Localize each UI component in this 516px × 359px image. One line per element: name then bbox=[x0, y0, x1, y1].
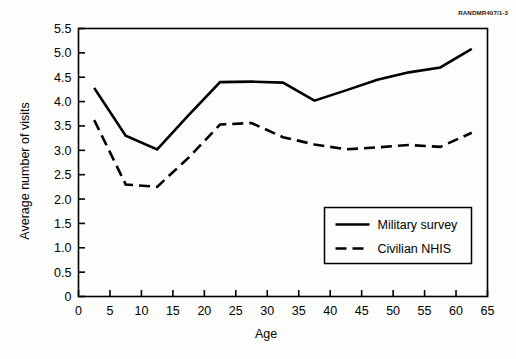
x-axis-tick-label: 5 bbox=[106, 304, 113, 318]
x-axis-tick-label: 10 bbox=[134, 304, 148, 318]
y-axis-tick-label: 1.5 bbox=[54, 217, 71, 231]
x-axis-tick-label: 45 bbox=[355, 304, 369, 318]
figure-chart: RANDMR407/1-3 Average number of visits A… bbox=[0, 0, 516, 359]
y-axis-tick-label: 5.5 bbox=[54, 22, 71, 36]
y-axis-tick-label: 1.0 bbox=[54, 241, 71, 255]
axis-tick-labels-group: 00.51.01.52.02.53.03.54.04.55.05.5051015… bbox=[54, 22, 494, 318]
x-axis-tick-label: 65 bbox=[481, 304, 495, 318]
x-axis-tick-label: 60 bbox=[449, 304, 463, 318]
y-axis-tick-label: 0.5 bbox=[54, 266, 71, 280]
x-axis-tick-label: 50 bbox=[386, 304, 400, 318]
x-axis-tick-label: 0 bbox=[75, 304, 82, 318]
data-series-group bbox=[94, 49, 472, 187]
legend-label: Civilian NHIS bbox=[378, 242, 452, 256]
y-axis-tick-label: 4.5 bbox=[54, 71, 71, 85]
series-line-civilian-nhis bbox=[94, 120, 472, 187]
y-axis-tick-label: 4.0 bbox=[54, 95, 71, 109]
chart-legend: Military surveyCivilian NHIS bbox=[325, 208, 472, 264]
x-axis-tick-label: 40 bbox=[323, 304, 337, 318]
x-axis-tick-label: 30 bbox=[260, 304, 274, 318]
y-axis-tick-label: 3.0 bbox=[54, 144, 71, 158]
x-axis-tick-label: 20 bbox=[197, 304, 211, 318]
x-axis-tick-label: 55 bbox=[418, 304, 432, 318]
y-axis-tick-label: 0 bbox=[65, 290, 72, 304]
legend-label: Military survey bbox=[378, 218, 459, 232]
x-axis-tick-label: 35 bbox=[292, 304, 306, 318]
y-axis-tick-label: 5.0 bbox=[54, 46, 71, 60]
series-line-military-survey bbox=[94, 49, 472, 149]
x-axis-tick-label: 15 bbox=[166, 304, 180, 318]
y-axis-tick-label: 2.5 bbox=[54, 168, 71, 182]
y-axis-tick-label: 3.5 bbox=[54, 119, 71, 133]
y-axis-tick-label: 2.0 bbox=[54, 193, 71, 207]
x-axis-tick-label: 25 bbox=[229, 304, 243, 318]
plot-area: 00.51.01.52.02.53.03.54.04.55.05.5051015… bbox=[0, 0, 516, 359]
